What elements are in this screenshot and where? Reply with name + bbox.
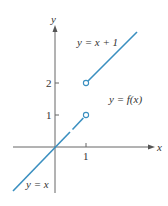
y-axis-label: y xyxy=(50,13,56,25)
x-tick-label-1: 1 xyxy=(83,150,89,162)
chart: y x 1 1 2 y = x + 1 y = f(x) y = x xyxy=(0,0,168,206)
annotation-function: y = f(x) xyxy=(108,93,142,106)
x-axis-arrow-icon xyxy=(148,145,155,150)
annotation-upper-line: y = x + 1 xyxy=(76,36,118,48)
open-circle-marker xyxy=(83,112,88,117)
y-tick-label-2: 2 xyxy=(46,77,52,89)
annotation-lower-line: y = x xyxy=(25,178,49,190)
open-circle-marker xyxy=(83,80,88,85)
line-y-equals-x-b xyxy=(73,118,84,130)
y-axis-arrow-icon xyxy=(53,25,58,32)
y-tick-label-1: 1 xyxy=(46,109,52,121)
x-axis-label: x xyxy=(156,141,162,153)
